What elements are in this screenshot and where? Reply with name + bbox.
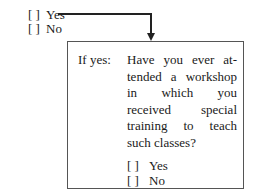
followup-checkbox-no[interactable]: [ ] bbox=[127, 174, 149, 187]
condition-label: If yes: bbox=[78, 52, 111, 69]
followup-checkbox-yes[interactable]: [ ] bbox=[127, 159, 149, 172]
followup-label-yes: Yes bbox=[149, 158, 168, 173]
connector-line-vertical bbox=[150, 13, 152, 35]
followup-option-yes[interactable]: [ ]Yes bbox=[127, 159, 168, 172]
arrow-down-icon bbox=[147, 33, 155, 41]
followup-box: If yes: Have you ever at­tended a worksh… bbox=[67, 41, 244, 189]
followup-option-no[interactable]: [ ]No bbox=[127, 174, 165, 187]
followup-question: Have you ever at­tended a workshop in wh… bbox=[127, 52, 237, 151]
connector-line-horizontal bbox=[58, 13, 151, 15]
checkbox-yes[interactable]: [ ] bbox=[28, 8, 46, 21]
checkbox-no[interactable]: [ ] bbox=[28, 22, 46, 35]
option-label-no: No bbox=[46, 21, 62, 36]
followup-label-no: No bbox=[149, 173, 165, 188]
outer-option-no[interactable]: [ ]No bbox=[28, 22, 62, 35]
outer-option-yes[interactable]: [ ]Yes bbox=[28, 8, 65, 21]
option-label-yes: Yes bbox=[46, 7, 65, 22]
